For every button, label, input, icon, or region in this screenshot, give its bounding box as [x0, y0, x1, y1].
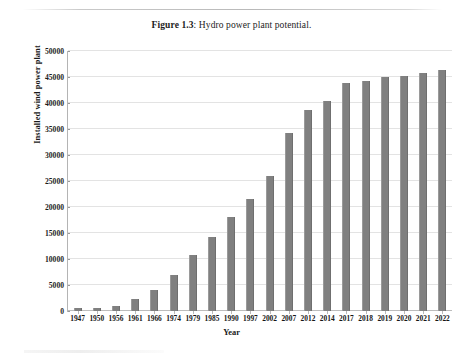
gridline: [68, 154, 452, 155]
gridline: [68, 258, 452, 259]
bar: [266, 176, 274, 311]
bar: [208, 237, 216, 311]
x-axis-tick-mark: [308, 311, 309, 314]
figure-caption-text: Hydro power plant potential.: [199, 20, 312, 30]
y-axis-tick-label: 35000: [20, 125, 64, 134]
y-axis-tick-label: 10000: [20, 255, 64, 264]
x-axis-tick-mark: [423, 311, 424, 314]
bar: [304, 110, 312, 311]
bar: [189, 255, 197, 311]
x-axis-tick-mark: [385, 311, 386, 314]
gridline: [68, 310, 452, 311]
bar: [285, 133, 293, 311]
bar: [131, 299, 139, 311]
x-axis-tick-mark: [289, 311, 290, 314]
gridline: [68, 102, 452, 103]
y-axis-tick-label: 40000: [20, 99, 64, 108]
bar: [246, 199, 254, 311]
page-artifact: [24, 350, 164, 353]
y-axis-tick-label: 30000: [20, 151, 64, 160]
x-axis-tick-mark: [366, 311, 367, 314]
bar: [381, 77, 389, 311]
x-axis-tick-mark: [346, 311, 347, 314]
gridline: [68, 206, 452, 207]
y-axis-tick-label: 0: [20, 307, 64, 316]
x-axis-title: Year: [0, 328, 463, 337]
x-axis-tick-mark: [327, 311, 328, 314]
bar: [438, 70, 446, 311]
x-axis-tick-mark: [270, 311, 271, 314]
top-divider-rule: [22, 9, 442, 10]
plot-area: [68, 51, 452, 311]
gridline: [68, 76, 452, 77]
x-axis-tick-mark: [442, 311, 443, 314]
bar: [419, 73, 427, 311]
gridline: [68, 180, 452, 181]
gridline: [68, 50, 452, 51]
x-axis-tick-labels: 1947195019561961196619741979198519901997…: [68, 314, 452, 328]
bar: [362, 81, 370, 311]
y-axis-tick-label: 45000: [20, 73, 64, 82]
x-axis-tick-mark: [116, 311, 117, 314]
y-axis-tick-label: 25000: [20, 177, 64, 186]
bar: [170, 275, 178, 311]
y-axis-tick-labels: 0500010000150002000025000300003500040000…: [12, 51, 64, 311]
x-axis-tick-mark: [97, 311, 98, 314]
figure-number: Figure 1.3: [152, 20, 194, 30]
y-axis-tick-label: 5000: [20, 281, 64, 290]
x-axis-tick-mark: [404, 311, 405, 314]
gridline: [68, 284, 452, 285]
x-axis-tick-mark: [135, 311, 136, 314]
y-axis-tick-label: 15000: [20, 229, 64, 238]
x-axis-tick-mark: [212, 311, 213, 314]
bar: [150, 290, 158, 311]
bar: [227, 217, 235, 311]
x-axis-tick-mark: [78, 311, 79, 314]
gridline: [68, 232, 452, 233]
x-axis-tick-label: 2022: [431, 314, 453, 323]
x-axis-tick-mark: [250, 311, 251, 314]
y-axis-tick-label: 20000: [20, 203, 64, 212]
x-axis-tick-mark: [231, 311, 232, 314]
y-axis-tick-label: 50000: [20, 47, 64, 56]
figure-caption: Figure 1.3: Hydro power plant potential.: [0, 20, 463, 30]
gridline: [68, 128, 452, 129]
bar: [323, 101, 331, 311]
x-axis-tick-mark: [154, 311, 155, 314]
bar: [400, 76, 408, 311]
bar: [342, 83, 350, 311]
x-axis-tick-mark: [174, 311, 175, 314]
bar-chart: Installed wind power plant 0500010000150…: [0, 40, 463, 340]
x-axis-tick-mark: [193, 311, 194, 314]
